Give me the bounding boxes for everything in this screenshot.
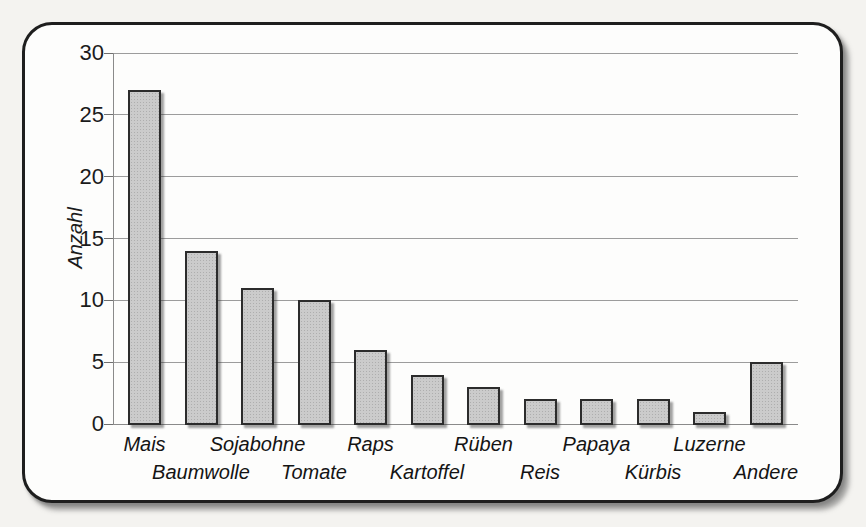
y-axis-line (113, 53, 114, 425)
x-tick-label: Luzerne (673, 433, 745, 456)
bar (637, 399, 670, 425)
x-tick-label: Papaya (563, 433, 631, 456)
y-tick-mark (104, 176, 113, 177)
bar (241, 288, 274, 425)
y-tick-label: 15 (54, 226, 104, 252)
y-tick-mark (104, 300, 113, 301)
x-tick-label: Andere (734, 461, 799, 484)
y-tick-label: 30 (54, 40, 104, 66)
x-tick-label: Baumwolle (152, 461, 250, 484)
bar (411, 375, 444, 425)
x-tick-label: Raps (347, 433, 394, 456)
gridline (113, 238, 798, 239)
bar (128, 90, 161, 425)
bar (580, 399, 613, 425)
y-tick-mark (104, 424, 113, 425)
x-tick-label: Kartoffel (390, 461, 464, 484)
bar (354, 350, 387, 425)
gridline (113, 176, 798, 177)
x-tick-label: Tomate (281, 461, 347, 484)
y-tick-mark (104, 114, 113, 115)
bar (524, 399, 557, 425)
x-tick-label: Mais (123, 433, 165, 456)
x-tick-label: Kürbis (625, 461, 682, 484)
gridline (113, 53, 798, 54)
bar (467, 387, 500, 425)
y-tick-label: 20 (54, 164, 104, 190)
bar (298, 300, 331, 425)
x-tick-label: Reis (520, 461, 560, 484)
bar-chart: Anzahl 051015202530MaisBaumwolleSojabohn… (0, 0, 866, 527)
y-tick-label: 25 (54, 102, 104, 128)
x-tick-label: Sojabohne (210, 433, 306, 456)
y-tick-mark (104, 362, 113, 363)
bar (750, 362, 783, 425)
y-tick-mark (104, 53, 113, 54)
bar (693, 412, 726, 425)
y-tick-mark (104, 238, 113, 239)
y-tick-label: 5 (54, 349, 104, 375)
gridline (113, 114, 798, 115)
y-tick-label: 0 (54, 411, 104, 437)
y-tick-label: 10 (54, 287, 104, 313)
x-tick-label: Rüben (454, 433, 513, 456)
page: { "chart_data": { "type": "bar", "catego… (0, 0, 866, 527)
bar (185, 251, 218, 425)
